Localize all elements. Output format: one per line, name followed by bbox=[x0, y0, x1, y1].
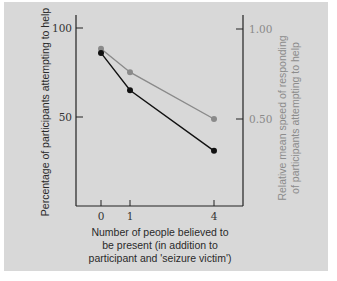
x-ticks: 014 bbox=[98, 200, 218, 222]
left-y-ticks: 50100 bbox=[52, 22, 83, 123]
x-axis-title: Number of people believed to be present … bbox=[70, 226, 250, 265]
data-point bbox=[98, 50, 104, 56]
y2-tick-label: 1.00 bbox=[249, 23, 272, 35]
data-point bbox=[211, 148, 217, 154]
y2-axis-title: Relative mean speed of responding of par… bbox=[276, 35, 301, 200]
right-y-ticks: 0.501.00 bbox=[236, 23, 272, 125]
y-tick-label: 100 bbox=[52, 22, 72, 34]
x-tick-label: 0 bbox=[98, 210, 105, 222]
svg-text:Relative mean speed of respond: Relative mean speed of responding bbox=[276, 35, 288, 200]
x-axis-title-line: be present (in addition to bbox=[70, 239, 250, 252]
y2-tick-label: 0.50 bbox=[249, 113, 272, 125]
y-axis-title: Percentage of participants attempting to… bbox=[39, 8, 51, 217]
data-point bbox=[211, 116, 217, 122]
x-axis-title-line: Number of people believed to bbox=[70, 226, 250, 239]
y-tick-label: 50 bbox=[59, 111, 72, 123]
data-point bbox=[127, 69, 133, 75]
x-axis-title-line: participant and 'seizure victim') bbox=[70, 252, 250, 265]
data-point bbox=[127, 87, 133, 93]
svg-text:of participants attempting to: of participants attempting to help bbox=[289, 42, 301, 194]
x-tick-label: 4 bbox=[211, 210, 218, 222]
series-percentage-line bbox=[98, 50, 217, 154]
x-tick-label: 1 bbox=[127, 210, 134, 222]
